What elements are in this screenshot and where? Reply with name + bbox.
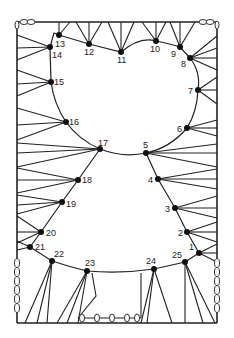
node-label: 8 (181, 59, 186, 69)
anchor-node-24 (151, 266, 157, 272)
node-label: 14 (52, 50, 62, 60)
anchor-node-2 (184, 229, 190, 235)
anchor-node-4 (155, 176, 161, 182)
node-label: 1 (189, 242, 194, 252)
side-springs (15, 259, 220, 313)
anchor-node-3 (172, 205, 178, 211)
node-label: 12 (84, 47, 94, 57)
radial-lines (17, 22, 217, 323)
node-label: 22 (54, 249, 64, 259)
node-label: 6 (177, 124, 182, 134)
node-label: 18 (82, 175, 92, 185)
corner-springs (15, 20, 219, 30)
node-label: 10 (150, 44, 160, 54)
node-label: 19 (66, 199, 76, 209)
node-label: 24 (146, 256, 156, 266)
node-label: 9 (171, 49, 176, 59)
anchor-node-8 (187, 55, 193, 61)
spring-icon (215, 21, 219, 29)
node-label: 15 (54, 77, 64, 87)
node-label: 3 (165, 204, 170, 214)
anchor-node-13 (56, 32, 62, 38)
node-label: 20 (46, 228, 56, 238)
anchor-node-6 (184, 125, 190, 131)
anchor-node-25 (182, 259, 188, 265)
spring-icon (206, 20, 214, 25)
anchor-node-23 (84, 268, 90, 274)
node-label: 4 (148, 175, 153, 185)
anchor-node-7 (195, 87, 201, 93)
node-label: 7 (188, 86, 193, 96)
anchor-node-5 (143, 150, 149, 156)
spring-icon (27, 20, 35, 25)
spring-icon (15, 21, 19, 29)
anchor-node-9 (177, 44, 183, 50)
anchor-node-20 (38, 229, 44, 235)
node-label: 2 (178, 228, 183, 238)
anchor-node-1 (196, 250, 202, 256)
node-label: 13 (55, 39, 65, 49)
anchor-node-21 (27, 244, 33, 250)
node-label: 17 (98, 138, 108, 148)
node-label: 5 (143, 140, 148, 150)
outer-frame (17, 22, 217, 323)
anchor-node-19 (59, 199, 65, 205)
node-label: 11 (117, 55, 126, 65)
node-label: 23 (85, 258, 95, 268)
anchor-node-18 (75, 177, 81, 183)
tension-frame-diagram: 1234567891011121314151617181920212223242… (0, 0, 234, 338)
node-label: 16 (69, 117, 79, 127)
node-label: 25 (172, 250, 182, 260)
node-label: 21 (35, 242, 45, 252)
